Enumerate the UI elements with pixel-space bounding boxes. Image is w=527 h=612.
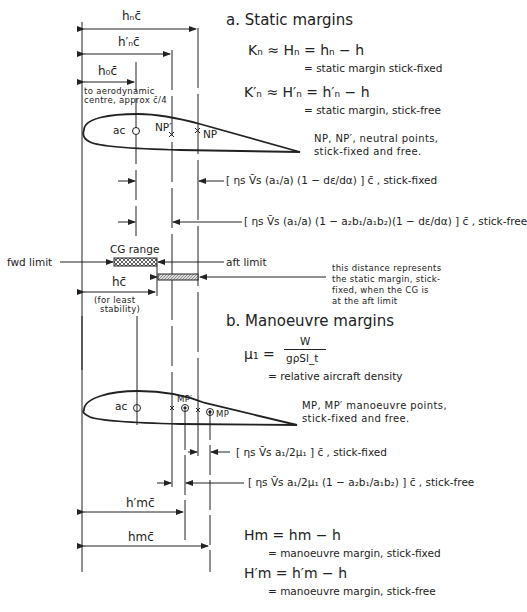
dim-hn-prime-label: h′ₙc̄ xyxy=(118,36,140,50)
formula-manoeuvre-fixed: [ ηs V̄s a₁/2μ₁ ] c̄ , stick-fixed xyxy=(236,446,387,458)
mu-denominator: gρSl_t xyxy=(286,352,318,364)
distance-note-1: this distance represents xyxy=(332,264,441,274)
distance-note-3: fixed, when the CG is xyxy=(332,286,429,296)
np-note-1: NP, NP′, neutral points, xyxy=(314,133,438,145)
mp-note-1: MP, MP′ manoeuvre points, xyxy=(302,400,447,412)
np-note-2: stick-fixed and free. xyxy=(314,146,422,158)
dim-h-label: hc̄ xyxy=(112,276,126,290)
dim-hn-label: hₙc̄ xyxy=(122,10,141,24)
ac-label-b: ac xyxy=(115,400,127,412)
dim-h0-label: h₀c̄ xyxy=(98,65,117,79)
distance-note-4: at the aft limit xyxy=(332,297,397,307)
dim-hm-label: hmc̄ xyxy=(128,531,154,545)
mu-lhs: μ₁ = xyxy=(244,346,275,362)
eq-manoeuvre-fixed: Hm = hm − h xyxy=(244,527,341,543)
aft-limit-label: aft limit xyxy=(226,256,267,268)
eq-static-fixed: Kₙ ≈ Hₙ = hₙ − h xyxy=(248,42,364,58)
ac-note-2: centre, approx c̄/4 xyxy=(84,96,167,106)
formula-manoeuvre-free: [ ηs V̄s a₁/2μ₁ (1 − a₂b₁/a₁b₂) ] c̄ , s… xyxy=(248,476,474,488)
eq-static-free-desc: = static margin, stick-free xyxy=(304,104,441,116)
eq-static-fixed-desc: = static margin stick-fixed xyxy=(304,62,442,74)
dim-hm-prime-label: h′mc̄ xyxy=(126,497,155,511)
mu-desc: = relative aircraft density xyxy=(268,370,403,382)
mu-fraction-bar xyxy=(284,349,326,350)
eq-manoeuvre-free: H′m = h′m − h xyxy=(244,565,347,581)
mp-note-2: stick-fixed and free. xyxy=(302,413,410,425)
mp-label: MP xyxy=(216,410,229,420)
np-label: NP xyxy=(203,128,217,140)
ac-label-a: ac xyxy=(113,124,125,136)
section-b-title: b. Manoeuvre margins xyxy=(226,313,394,330)
eq-manoeuvre-free-desc: = manoeuvre margin, stick-free xyxy=(268,585,436,597)
section-a-title: a. Static margins xyxy=(226,12,353,29)
fwd-limit-label: fwd limit xyxy=(7,256,52,268)
eq-static-free: K′ₙ ≈ H′ₙ = h′ₙ − h xyxy=(244,84,370,100)
distance-note-2: the static margin, stick- xyxy=(332,275,440,285)
formula-static-fixed: [ ηs V̄s (a₁/a) (1 − dε/dα) ] c̄ , stick… xyxy=(226,174,437,186)
np-prime-label: NP′ xyxy=(155,121,172,133)
mu-numerator: W xyxy=(300,335,310,347)
mp-prime-label: MP′ xyxy=(177,395,192,405)
cg-range-label: CG range xyxy=(110,243,159,255)
eq-manoeuvre-fixed-desc: = manoeuvre margin, stick-fixed xyxy=(268,547,441,559)
formula-static-free: [ ηs V̄s (a₁/a) (1 − a₂b₁/a₁b₂)(1 − dε/d… xyxy=(244,215,527,227)
least-stability-2: stability) xyxy=(100,305,140,315)
